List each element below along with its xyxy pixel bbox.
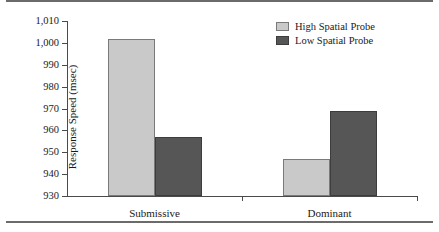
y-tick-label: 960 [43, 125, 59, 135]
y-tick-label: 980 [43, 82, 59, 92]
y-tick-label: 940 [43, 169, 59, 179]
y-tick-label: 930 [43, 191, 59, 201]
bar-submissive-low [155, 137, 202, 196]
y-axis-title: Response Speed (msec) [66, 65, 78, 169]
y-tick [62, 21, 67, 22]
x-tick-label-submissive: Submissive [129, 207, 180, 219]
bar-dominant-high [283, 159, 330, 196]
bar-submissive-high [108, 39, 155, 197]
x-tick-end [417, 196, 418, 201]
y-tick-label: 950 [43, 147, 59, 157]
bottom-rule [6, 221, 433, 223]
x-tick-label-dominant: Dominant [308, 207, 352, 219]
plot-area: 1,0101,000990980970960950940930 Submissi… [67, 21, 417, 196]
x-tick [242, 196, 243, 201]
legend-label-high-spatial-probe: High Spatial Probe [295, 21, 375, 32]
figure: 1,0101,000990980970960950940930 Submissi… [0, 0, 439, 232]
bar-dominant-low [330, 111, 377, 196]
y-tick-label: 990 [43, 60, 59, 70]
legend-item-high: High Spatial Probe [276, 19, 375, 33]
legend-swatch-low-spatial-probe [276, 36, 289, 45]
y-tick-label: 970 [43, 104, 59, 114]
y-tick [62, 174, 67, 175]
legend-label-low-spatial-probe: Low Spatial Probe [295, 35, 373, 46]
y-tick [62, 196, 67, 197]
y-tick-label: 1,010 [35, 16, 59, 26]
top-rule [6, 0, 433, 2]
legend: High Spatial Probe Low Spatial Probe [276, 19, 375, 47]
legend-item-low: Low Spatial Probe [276, 33, 375, 47]
y-tick-label: 1,000 [35, 38, 59, 48]
y-tick [62, 43, 67, 44]
legend-swatch-high-spatial-probe [276, 22, 289, 31]
